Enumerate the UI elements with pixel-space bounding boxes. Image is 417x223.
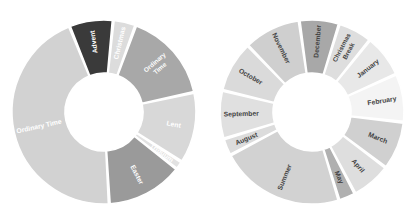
academic-year-donut-chart: DecemberChristmasBreakJanuaryFebruaryMar…	[208, 0, 417, 223]
academic-year-donut-svg: DecemberChristmasBreakJanuaryFebruaryMar…	[208, 0, 417, 223]
figure-canvas: AdventChristmasOrdinaryTimeLentTriduumEa…	[0, 0, 417, 223]
liturgical-year-donut-chart: AdventChristmasOrdinaryTimeLentTriduumEa…	[0, 0, 209, 223]
liturgical-year-donut-svg: AdventChristmasOrdinaryTimeLentTriduumEa…	[0, 0, 209, 223]
